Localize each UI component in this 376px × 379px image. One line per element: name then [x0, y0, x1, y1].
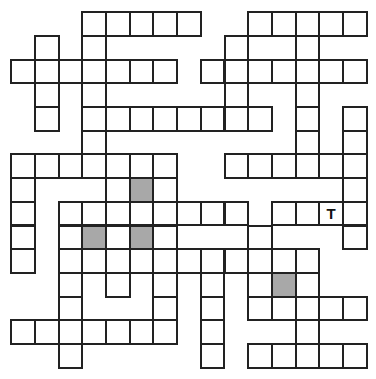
grid-cell[interactable] [318, 59, 344, 85]
grid-cell[interactable] [58, 248, 84, 274]
grid-cell[interactable] [152, 319, 178, 345]
grid-cell[interactable] [224, 82, 250, 108]
grid-cell[interactable] [105, 272, 131, 298]
grid-cell[interactable] [200, 272, 226, 298]
grid-cell[interactable] [105, 177, 131, 203]
grid-cell[interactable] [247, 343, 273, 369]
grid-cell[interactable] [152, 201, 178, 227]
grid-cell[interactable] [152, 153, 178, 179]
grid-cell[interactable] [342, 11, 368, 37]
grid-cell[interactable] [58, 153, 84, 179]
grid-cell[interactable] [176, 11, 202, 37]
grid-cell[interactable] [295, 201, 321, 227]
grid-cell[interactable] [295, 319, 321, 345]
grid-cell[interactable] [247, 248, 273, 274]
grid-cell[interactable] [34, 82, 60, 108]
grid-cell[interactable] [318, 11, 344, 37]
grid-cell[interactable] [342, 343, 368, 369]
shaded-cell[interactable] [81, 225, 107, 251]
grid-cell[interactable] [10, 201, 36, 227]
grid-cell[interactable] [295, 106, 321, 132]
grid-cell[interactable] [271, 201, 297, 227]
grid-cell[interactable] [34, 153, 60, 179]
grid-cell[interactable] [271, 248, 297, 274]
grid-cell[interactable] [10, 248, 36, 274]
grid-cell[interactable] [129, 153, 155, 179]
grid-cell[interactable] [342, 296, 368, 322]
grid-cell[interactable] [58, 296, 84, 322]
grid-cell[interactable] [200, 59, 226, 85]
grid-cell[interactable] [295, 82, 321, 108]
grid-cell[interactable] [129, 319, 155, 345]
grid-cell[interactable] [58, 201, 84, 227]
grid-cell[interactable] [58, 59, 84, 85]
grid-cell[interactable] [247, 11, 273, 37]
shaded-cell[interactable] [129, 225, 155, 251]
grid-cell[interactable] [10, 59, 36, 85]
grid-cell[interactable] [224, 35, 250, 61]
grid-cell[interactable] [105, 11, 131, 37]
grid-cell[interactable] [105, 248, 131, 274]
grid-cell[interactable] [105, 201, 131, 227]
grid-cell[interactable] [152, 177, 178, 203]
grid-cell[interactable] [247, 225, 273, 251]
grid-cell[interactable] [295, 59, 321, 85]
grid-cell[interactable] [58, 272, 84, 298]
grid-cell[interactable] [224, 248, 250, 274]
grid-cell[interactable] [271, 343, 297, 369]
grid-cell[interactable] [105, 153, 131, 179]
grid-cell[interactable] [342, 225, 368, 251]
grid-cell[interactable] [224, 106, 250, 132]
grid-cell[interactable] [105, 59, 131, 85]
grid-cell[interactable] [200, 319, 226, 345]
grid-cell[interactable] [176, 106, 202, 132]
grid-cell[interactable] [342, 201, 368, 227]
grid-cell[interactable] [271, 11, 297, 37]
grid-cell[interactable] [342, 59, 368, 85]
grid-cell[interactable] [200, 106, 226, 132]
grid-cell[interactable] [247, 59, 273, 85]
grid-cell[interactable] [295, 153, 321, 179]
grid-cell[interactable] [105, 106, 131, 132]
grid-cell[interactable] [295, 296, 321, 322]
grid-cell[interactable] [34, 106, 60, 132]
grid-cell[interactable] [247, 106, 273, 132]
grid-cell[interactable] [271, 296, 297, 322]
grid-cell[interactable] [34, 319, 60, 345]
grid-cell[interactable] [200, 343, 226, 369]
shaded-cell[interactable] [129, 177, 155, 203]
grid-cell[interactable] [10, 225, 36, 251]
grid-cell[interactable] [295, 343, 321, 369]
grid-cell[interactable] [81, 59, 107, 85]
grid-cell[interactable] [58, 343, 84, 369]
grid-cell[interactable] [10, 153, 36, 179]
grid-cell[interactable] [81, 319, 107, 345]
grid-cell[interactable] [10, 319, 36, 345]
grid-cell[interactable] [10, 177, 36, 203]
grid-cell[interactable] [318, 343, 344, 369]
grid-cell[interactable] [247, 153, 273, 179]
grid-cell[interactable] [295, 35, 321, 61]
grid-cell[interactable] [318, 296, 344, 322]
grid-cell[interactable] [129, 59, 155, 85]
grid-cell[interactable] [58, 319, 84, 345]
grid-cell[interactable] [271, 153, 297, 179]
grid-cell[interactable] [295, 272, 321, 298]
grid-cell[interactable] [81, 130, 107, 156]
grid-cell[interactable] [295, 130, 321, 156]
grid-cell[interactable] [129, 201, 155, 227]
grid-cell[interactable] [81, 153, 107, 179]
grid-cell[interactable] [81, 11, 107, 37]
grid-cell[interactable] [105, 225, 131, 251]
grid-cell[interactable] [271, 59, 297, 85]
grid-cell[interactable] [342, 106, 368, 132]
grid-cell[interactable] [342, 130, 368, 156]
grid-cell[interactable] [224, 59, 250, 85]
grid-cell[interactable] [81, 248, 107, 274]
grid-cell[interactable] [342, 153, 368, 179]
grid-cell[interactable] [152, 106, 178, 132]
grid-cell[interactable] [318, 153, 344, 179]
grid-cell[interactable] [81, 106, 107, 132]
grid-cell[interactable] [200, 296, 226, 322]
grid-cell[interactable] [129, 248, 155, 274]
